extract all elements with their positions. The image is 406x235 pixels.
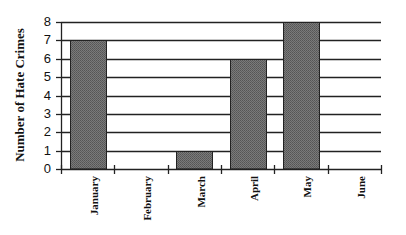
y-tick-label: 3	[37, 107, 51, 121]
bar-may	[284, 23, 320, 170]
bar-april	[231, 60, 267, 170]
x-category-label-text: June	[354, 176, 366, 199]
y-tick-label: 2	[37, 125, 51, 139]
y-tick-label: 5	[37, 70, 51, 84]
x-category-label-text: February	[141, 176, 153, 221]
y-tick-label: 1	[37, 144, 51, 158]
y-tick-label: 8	[37, 15, 51, 29]
x-category-label: January	[74, 176, 88, 232]
y-tick-label: 4	[37, 89, 51, 103]
x-category-label-text: March	[194, 176, 206, 208]
y-tick-label: 0	[37, 162, 51, 176]
bar-chart: Number of Hate Crimes 012345678 JanuaryF…	[0, 0, 406, 235]
x-category-label: April	[234, 176, 248, 232]
x-category-label: March	[180, 176, 194, 232]
x-category-label-text: January	[88, 176, 100, 215]
y-tick-label: 6	[37, 52, 51, 66]
gridlines	[61, 23, 381, 152]
x-category-label-text: April	[248, 176, 260, 201]
bars	[71, 23, 320, 170]
x-category-label: June	[340, 176, 354, 232]
y-tick-label: 7	[37, 33, 51, 47]
bar-january	[71, 41, 107, 170]
x-category-label: February	[127, 176, 141, 232]
x-category-label-text: May	[301, 176, 313, 197]
bar-march	[177, 152, 213, 170]
x-category-label: May	[287, 176, 301, 232]
